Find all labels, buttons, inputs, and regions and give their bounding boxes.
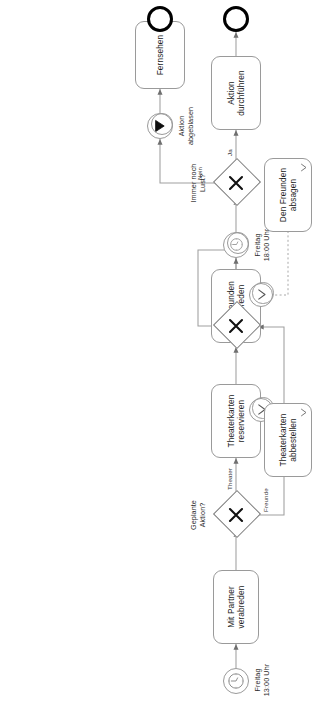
escalation-icon (299, 408, 308, 417)
intermediate-timer-event[interactable] (223, 232, 249, 258)
clock-icon (224, 669, 248, 693)
task-label: Aktion durchführen (226, 60, 247, 126)
task-mit-partner-verabreden[interactable]: Mit Partner verabreden (213, 570, 259, 644)
fernsehen-end-connector (0, 0, 312, 710)
task-label: Theaterkarten reservieren (226, 388, 247, 454)
intermediate-timer-label: Freitag 18:00 Uhr (254, 227, 272, 263)
flow-label-ja: Ja (226, 149, 234, 156)
flow-label-freunde: Freunde (262, 488, 270, 512)
gateway-immer-noch-lust[interactable] (220, 167, 252, 199)
task-theaterkarten-reservieren[interactable]: Theaterkarten reservieren (211, 384, 261, 458)
flow-label-nein: Nein (196, 167, 204, 180)
task-aktion-durchfuehren[interactable]: Aktion durchführen (211, 56, 261, 130)
task-label: Mit Partner verabreden (226, 574, 247, 640)
gateway-join[interactable] (220, 310, 252, 342)
task-label: Theaterkarten abbestellen (278, 407, 299, 473)
clock-icon (224, 233, 248, 257)
escalation-filled-icon (148, 114, 172, 138)
gateway-geplante-aktion[interactable] (220, 499, 252, 531)
bpmn-diagram-canvas: Freitag 13:00 Uhr Mit Partner verabreden… (0, 0, 312, 710)
bpmn-rotated-canvas: Freitag 13:00 Uhr Mit Partner verabreden… (0, 0, 312, 710)
task-den-freunden-absagen[interactable]: Den Freunden absagen (264, 158, 312, 232)
gateway-geplante-aktion-label: Geplante Aktion? (190, 480, 208, 550)
escalation-icon (250, 284, 272, 306)
gateway-immer-noch-lust-label: Immer noch Lust? (190, 148, 208, 218)
flow-label-theater: Theater (226, 468, 234, 490)
end-event-aktion-durchfuehren[interactable] (223, 6, 249, 32)
gateway-x-icon (220, 310, 252, 342)
end-event-fernsehen[interactable] (147, 6, 173, 32)
task-label: Den Freunden absagen (278, 162, 299, 228)
gateway-x-icon (220, 167, 252, 199)
task-theaterkarten-abbestellen[interactable]: Theaterkarten abbestellen (264, 403, 312, 477)
task-label: Fernsehen (155, 35, 165, 76)
start-timer-event[interactable] (223, 668, 249, 694)
escalation-throw-event[interactable] (147, 113, 173, 139)
boundary-escalation-event-freunde[interactable] (249, 283, 273, 307)
start-event-label: Freitag 13:00 Uhr (254, 662, 272, 698)
escalation-icon (299, 163, 308, 172)
escalation-throw-label: Aktion abgeblasen (178, 103, 196, 149)
gateway-x-icon (220, 499, 252, 531)
